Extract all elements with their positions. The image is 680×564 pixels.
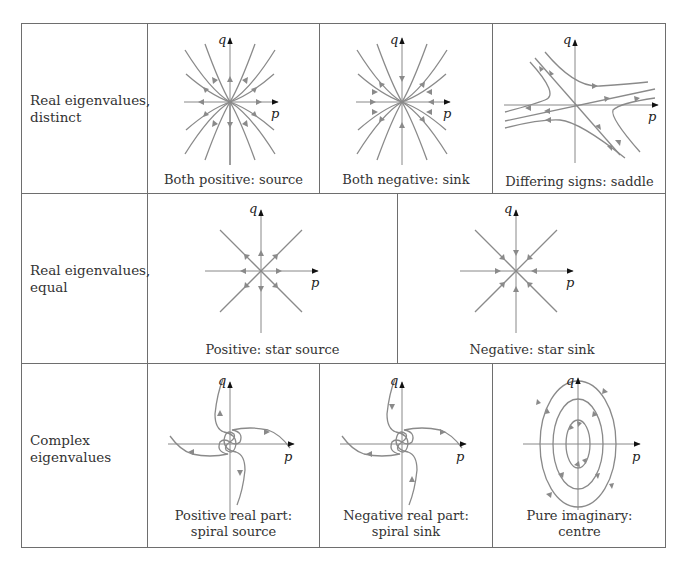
caption-sink: Both negative: sink (320, 172, 492, 188)
caption-centre: Pure imaginary: centre (493, 508, 666, 540)
row-label-real-distinct: Real eigenvalues, distinct (30, 92, 150, 126)
p-axis-label: p (311, 275, 320, 290)
star-sink-diagram: q p (397, 193, 666, 363)
node-source-diagram: q p (147, 23, 319, 193)
row-label-line: Real eigenvalues, (30, 92, 150, 109)
q-axis-label: q (218, 373, 226, 388)
q-axis-label: q (390, 32, 398, 47)
caption-saddle: Differing signs: saddle (493, 174, 666, 190)
caption-spiral-sink: Negative real part: spiral sink (320, 508, 492, 540)
caption-line: centre (493, 524, 666, 540)
caption-line: Positive real part: (148, 508, 319, 524)
caption-line: spiral sink (320, 524, 492, 540)
caption-spiral-source: Positive real part: spiral source (148, 508, 319, 540)
p-axis-label: p (271, 106, 280, 121)
caption-line: Pure imaginary: (493, 508, 666, 524)
caption-star-sink: Negative: star sink (398, 342, 666, 358)
row-label-line: eigenvalues (30, 449, 111, 466)
p-axis-label: p (632, 449, 641, 464)
row-label-real-equal: Real eigenvalues, equal (30, 262, 150, 296)
row-label-line: distinct (30, 109, 150, 126)
q-axis-label: q (249, 201, 257, 216)
p-axis-label: p (456, 449, 465, 464)
caption-line: Negative real part: (320, 508, 492, 524)
row-label-line: Complex (30, 432, 111, 449)
saddle-diagram: q p (492, 23, 666, 193)
star-source-diagram: q p (147, 193, 397, 363)
caption-source: Both positive: source (148, 172, 319, 188)
q-axis-label: q (504, 201, 512, 216)
node-sink-diagram: q p (319, 23, 492, 193)
p-axis-label: p (566, 275, 575, 290)
row-label-line: Real eigenvalues, (30, 262, 150, 279)
p-axis-label: p (443, 106, 452, 121)
p-axis-label: p (284, 449, 293, 464)
row-label-line: equal (30, 279, 150, 296)
caption-star-source: Positive: star source (148, 342, 397, 358)
q-axis-label: q (563, 32, 571, 47)
q-axis-label: q (218, 32, 226, 47)
p-axis-label: p (648, 109, 657, 124)
q-axis-label: q (390, 373, 398, 388)
row-label-complex: Complex eigenvalues (30, 432, 111, 466)
caption-line: spiral source (148, 524, 319, 540)
q-axis-label: q (566, 373, 574, 388)
